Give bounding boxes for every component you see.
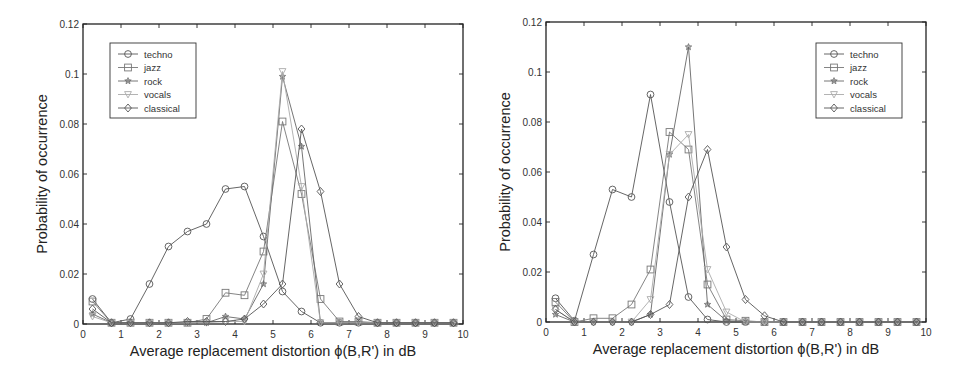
x-tick-label: 0 [543, 327, 549, 338]
y-tick-label: 0.06 [523, 167, 543, 178]
y-tick-label: 0.04 [60, 219, 80, 230]
x-tick-label: 6 [308, 329, 314, 340]
x-tick-label: 10 [920, 327, 932, 338]
legend-item-classical: classical [118, 103, 180, 114]
x-tick-label: 3 [657, 327, 663, 338]
y-tick-label: 0 [536, 317, 542, 328]
x-tick-label: 7 [346, 329, 352, 340]
legend-label: jazz [143, 62, 161, 73]
legend-label: rock [144, 76, 162, 87]
legend: technojazzrockvocalsclassical [110, 43, 196, 118]
y-tick-label: 0.08 [523, 117, 543, 128]
x-tick-label: 1 [118, 329, 124, 340]
y-tick-label: 0.02 [60, 269, 80, 280]
right-chart: 01234567891000.020.040.060.080.10.12Aver… [480, 0, 960, 384]
x-axis-title: Average replacement distortion ϕ(B,R') i… [130, 343, 416, 359]
x-tick-label: 0 [80, 329, 86, 340]
x-tick-label: 10 [457, 329, 469, 340]
y-tick-label: 0.06 [60, 169, 80, 180]
legend-label: rock [850, 76, 868, 87]
left-chart: 01234567891000.020.040.060.080.10.12Aver… [0, 0, 480, 384]
y-tick-label: 0.12 [523, 17, 543, 28]
y-axis-title: Probability of occurrence [34, 94, 50, 254]
y-axis-title: Probability of occurrence [497, 92, 513, 252]
x-tick-label: 6 [771, 327, 777, 338]
y-tick-label: 0.04 [523, 217, 543, 228]
legend-label: techno [144, 49, 173, 60]
y-tick-label: 0.08 [60, 119, 80, 130]
x-tick-label: 4 [695, 327, 701, 338]
x-tick-label: 9 [422, 329, 428, 340]
legend-item-classical: classical [824, 103, 886, 114]
x-tick-label: 5 [270, 329, 276, 340]
x-tick-label: 1 [581, 327, 587, 338]
x-tick-label: 7 [809, 327, 815, 338]
x-axis-title: Average replacement distortion ϕ(B,R') i… [593, 341, 879, 357]
y-tick-label: 0.1 [528, 67, 542, 78]
legend-label: classical [144, 103, 180, 114]
left-chart-svg: 01234567891000.020.040.060.080.10.12Aver… [0, 0, 480, 384]
y-tick-label: 0.1 [65, 69, 79, 80]
y-tick-label: 0 [73, 319, 79, 330]
legend-label: techno [850, 49, 879, 60]
legend-label: vocals [144, 89, 171, 100]
right-chart-svg: 01234567891000.020.040.060.080.10.12Aver… [480, 0, 960, 384]
x-tick-label: 2 [156, 329, 162, 340]
legend-label: classical [850, 103, 886, 114]
legend-label: jazz [849, 62, 867, 73]
x-tick-label: 4 [232, 329, 238, 340]
x-tick-label: 8 [384, 329, 390, 340]
x-tick-label: 5 [733, 327, 739, 338]
legend-label: vocals [850, 89, 877, 100]
x-tick-label: 3 [194, 329, 200, 340]
x-tick-label: 8 [847, 327, 853, 338]
legend: technojazzrockvocalsclassical [816, 43, 902, 118]
x-tick-label: 9 [885, 327, 891, 338]
y-tick-label: 0.02 [523, 267, 543, 278]
x-tick-label: 2 [619, 327, 625, 338]
y-tick-label: 0.12 [60, 19, 80, 30]
